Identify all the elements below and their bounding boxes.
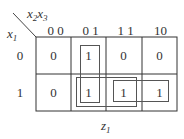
cell-r0-c11: 0 [106, 37, 141, 74]
column-variables-label: x2x3 [27, 6, 48, 23]
row-label-1: 1 [14, 86, 26, 99]
cell-r1-c00: 0 [36, 74, 71, 111]
cell-r0-c10: 0 [142, 37, 177, 74]
row-var-sub: 1 [13, 33, 18, 43]
caption-sub: 1 [106, 125, 111, 135]
row-label-0: 0 [14, 49, 26, 62]
col-var-b-sub: 3 [43, 13, 48, 23]
col-label-00: 0 0 [38, 24, 73, 37]
col-label-10: 10 [143, 24, 178, 37]
cell-r0-c00: 0 [36, 37, 71, 74]
group-row1-11-10 [113, 80, 169, 102]
col-label-11: 1 1 [108, 24, 143, 37]
map-caption: z1 [101, 118, 111, 135]
row-variable-label: x1 [7, 26, 17, 43]
col-label-01: 0 1 [73, 24, 108, 37]
